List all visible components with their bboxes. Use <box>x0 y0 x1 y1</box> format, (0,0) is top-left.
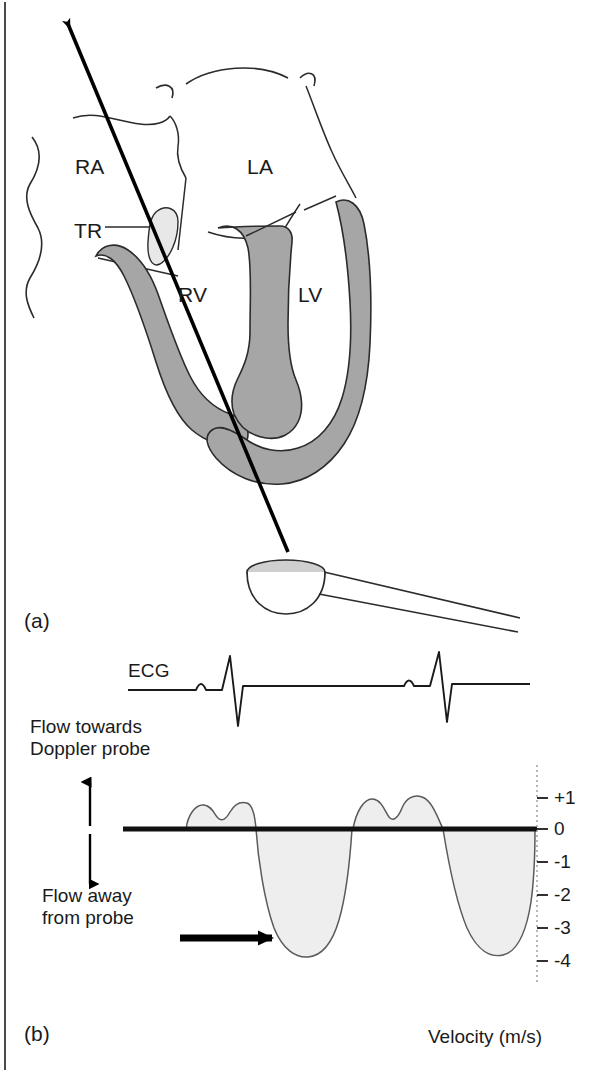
vessel-stub-left <box>156 85 173 98</box>
velocity-axis-ticks <box>537 798 548 961</box>
chest-wall-contour <box>26 137 42 318</box>
probe-body <box>247 572 325 614</box>
label-left-atrium: LA <box>247 155 273 179</box>
la-lv-leader-line-2 <box>304 196 336 210</box>
doppler-transducer-probe <box>247 560 520 632</box>
flow-away-label-line2: from probe <box>42 907 134 929</box>
probe-cable-top <box>324 572 520 618</box>
tick-label-minus-2: -2 <box>554 884 571 906</box>
label-right-ventricle: RV <box>178 283 207 307</box>
panel-b-doppler-trace <box>90 652 548 985</box>
label-tricuspid-regurgitation: TR <box>74 219 102 243</box>
ecg-label: ECG <box>128 660 170 682</box>
left-atrium-wall <box>306 86 356 198</box>
label-left-ventricle: LV <box>298 283 323 307</box>
tick-label-minus-1: -1 <box>554 851 571 873</box>
label-right-atrium: RA <box>75 155 105 179</box>
interatrial-septum-upper <box>170 116 186 178</box>
right-atrium-roof <box>73 115 170 124</box>
velocity-axis-label: Velocity (m/s) <box>428 1026 542 1048</box>
tick-label-minus-4: -4 <box>554 950 571 972</box>
interatrial-septum-lower <box>178 178 186 250</box>
flow-towards-label-line2: Doppler probe <box>30 738 150 760</box>
figure-root: RA TR LA RV LV (a) (b) ECG Flow towards … <box>0 0 594 1072</box>
flow-towards-label-line1: Flow towards <box>30 716 142 738</box>
tick-label-minus-3: -3 <box>554 917 571 939</box>
interventricular-septum-myocardium <box>218 226 302 438</box>
forward-flow-envelope-2 <box>353 796 443 829</box>
forward-flow-envelope-1 <box>186 802 256 829</box>
panel-a-label: (a) <box>24 609 50 633</box>
probe-cable-bottom <box>319 594 518 632</box>
flow-away-label-line1: Flow away <box>42 885 132 907</box>
ecg-waveform <box>128 652 530 726</box>
regurgitant-flow-envelope-2 <box>443 829 535 956</box>
vessel-stub-right <box>300 73 315 86</box>
panel-a-heart-diagram <box>26 24 520 632</box>
panel-b-label: (b) <box>24 1022 50 1046</box>
tick-label-0: 0 <box>554 818 565 840</box>
vessel-stub-mid <box>186 68 288 84</box>
tick-label-plus-1: +1 <box>554 787 576 809</box>
